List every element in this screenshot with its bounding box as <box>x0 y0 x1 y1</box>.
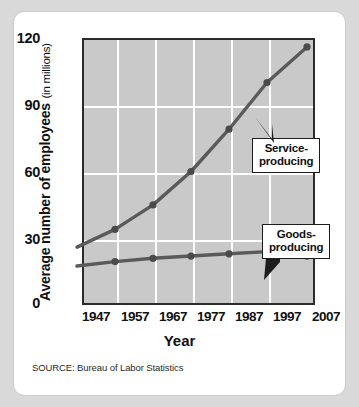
annotation-goods-line2: producing <box>269 241 323 254</box>
y-tick-label-0: 0 <box>0 295 40 311</box>
x-axis-title: Year <box>14 332 345 349</box>
y-tick-label-90: 90 <box>0 97 40 113</box>
annotation-goods-producing: Goods- producing <box>262 224 330 259</box>
data-point <box>149 255 156 262</box>
x-tick-label-2007: 2007 <box>303 309 349 324</box>
data-point <box>303 43 310 50</box>
chart-card: Average number of employees (in millions… <box>14 12 345 395</box>
data-point <box>111 258 118 265</box>
source-note: SOURCE: Bureau of Labor Statistics <box>32 362 183 373</box>
data-point <box>263 79 270 86</box>
data-point <box>111 226 118 233</box>
y-axis-title-unit: (in millions) <box>40 43 52 99</box>
annotation-service-line2: producing <box>259 155 313 168</box>
annotation-goods-tail-icon <box>258 258 284 284</box>
x-axis-tick-labels: 1947 1957 1967 1977 1987 1997 2007 <box>74 309 324 329</box>
annotation-service-tail-icon <box>250 117 276 147</box>
data-point <box>149 201 156 208</box>
annotation-goods-line1: Goods- <box>277 228 316 240</box>
data-point <box>225 126 232 133</box>
y-tick-label-60: 60 <box>0 164 40 180</box>
data-point <box>187 252 194 259</box>
data-point <box>225 250 232 257</box>
data-point <box>187 168 194 175</box>
y-axis-title-main: Average number of employees <box>37 103 53 301</box>
y-tick-label-30: 30 <box>0 231 40 247</box>
y-tick-label-120: 120 <box>0 30 40 46</box>
